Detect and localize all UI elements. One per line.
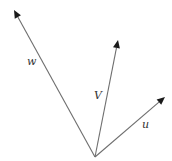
vector-w-shaft [18,17,95,157]
vector-label-w: w [27,55,37,68]
arrowhead-icon [113,40,120,49]
vector-w: w [14,10,95,157]
vector-label-u: u [142,118,149,131]
vector-label-v: V [94,89,103,102]
vector-diagram: wVu [0,0,172,161]
vectors-group: wVu [14,10,165,157]
vector-v-shaft [95,48,116,157]
